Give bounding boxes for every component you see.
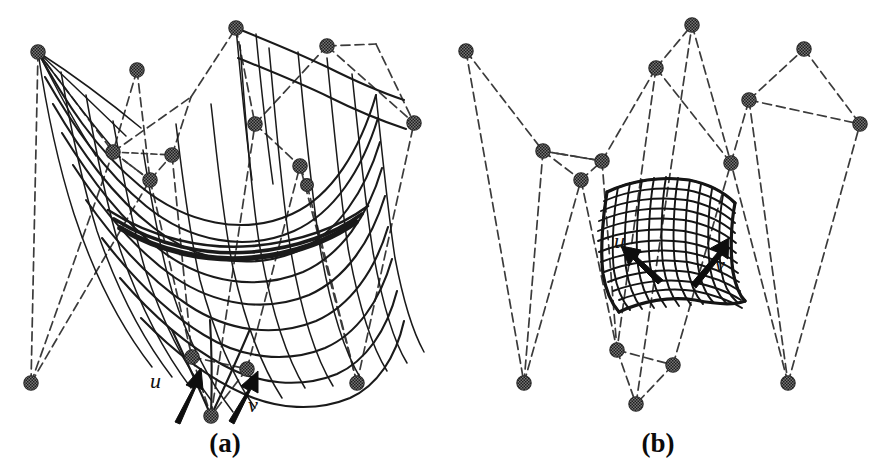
panel-b: u v (b) (447, 0, 894, 470)
control-point (595, 154, 609, 168)
control-point (649, 61, 663, 75)
control-point (536, 144, 550, 158)
panel-a-caption: (a) (209, 428, 240, 458)
control-point (229, 21, 243, 35)
control-point (610, 343, 624, 357)
control-point (143, 173, 157, 187)
control-point (724, 156, 738, 170)
control-point (301, 179, 314, 192)
v-label-b: v (715, 252, 725, 277)
u-label-b: u (614, 228, 625, 253)
control-point (106, 145, 120, 159)
control-point (293, 159, 307, 173)
panel-b-caption: (b) (642, 428, 675, 458)
control-point (240, 362, 254, 376)
control-point (797, 42, 811, 56)
control-point (629, 397, 643, 411)
control-point (130, 63, 144, 77)
control-point (742, 93, 756, 107)
control-point (574, 173, 588, 187)
control-point (320, 39, 334, 53)
u-arrow-icon (175, 368, 203, 424)
control-point (248, 117, 262, 131)
control-point (185, 350, 199, 364)
control-point (459, 44, 473, 58)
control-point (407, 116, 421, 130)
u-label-a: u (150, 368, 161, 393)
v-label-a: v (248, 392, 258, 417)
control-point (165, 148, 179, 162)
control-point (24, 376, 38, 390)
control-point (350, 376, 364, 390)
control-point (685, 18, 699, 32)
control-point (517, 376, 531, 390)
panel-a: u v (a) (0, 0, 447, 470)
control-point (853, 117, 867, 131)
control-point (781, 376, 795, 390)
figure-root: u v (a) (0, 0, 894, 470)
control-point (666, 358, 680, 372)
control-point (204, 409, 218, 423)
control-point (31, 45, 45, 59)
surface-mesh-a (38, 28, 424, 416)
